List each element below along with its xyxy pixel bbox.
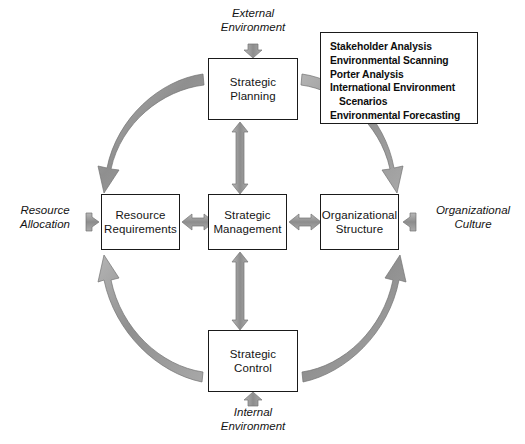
label-internal-environment: Internal Environment [196, 405, 310, 434]
horizontal-double-arrow-management-structure [289, 214, 321, 230]
node-label: Strategic Planning [228, 75, 278, 103]
technique-list-item: Stakeholder Analysis [330, 40, 477, 54]
small-down-arrow-external-environment [244, 44, 262, 58]
technique-list-item: International Environment [330, 81, 477, 95]
label-organizational-culture: Organizational Culture [424, 203, 522, 232]
label-resource-allocation: Resource Allocation [6, 203, 84, 232]
node-label: Resource Requirements [102, 208, 179, 236]
arc-arrow-control-to-structure [302, 255, 406, 382]
node-label: Strategic Management [211, 208, 283, 236]
vertical-double-arrow-planning-management [232, 122, 248, 194]
technique-list-item: Scenarios [330, 95, 477, 109]
node-label: Strategic Control [228, 347, 278, 375]
vertical-double-arrow-management-control [232, 252, 248, 330]
node-strategic-management[interactable]: Strategic Management [208, 194, 287, 250]
node-label: Organizational Structure [320, 208, 400, 236]
technique-list-item: Environmental Forecasting [330, 109, 477, 123]
small-up-arrow-internal-environment [244, 392, 262, 406]
node-organizational-structure[interactable]: Organizational Structure [320, 194, 399, 250]
diagram-canvas: Strategic Planning Resource Requirements… [0, 0, 525, 444]
node-strategic-control[interactable]: Strategic Control [208, 330, 298, 392]
technique-list-item: Environmental Scanning [330, 54, 477, 68]
small-left-arrow-organizational-culture [403, 213, 416, 231]
arc-arrow-planning-to-requirements [98, 74, 204, 193]
label-external-environment: External Environment [196, 6, 310, 35]
small-right-arrow-resource-allocation [86, 213, 99, 231]
node-strategic-planning[interactable]: Strategic Planning [208, 58, 298, 120]
node-resource-requirements[interactable]: Resource Requirements [101, 194, 180, 250]
technique-list-box: Stakeholder Analysis Environmental Scann… [320, 32, 478, 124]
arc-arrow-control-to-requirements [98, 255, 203, 382]
technique-list-item: Porter Analysis [330, 68, 477, 82]
